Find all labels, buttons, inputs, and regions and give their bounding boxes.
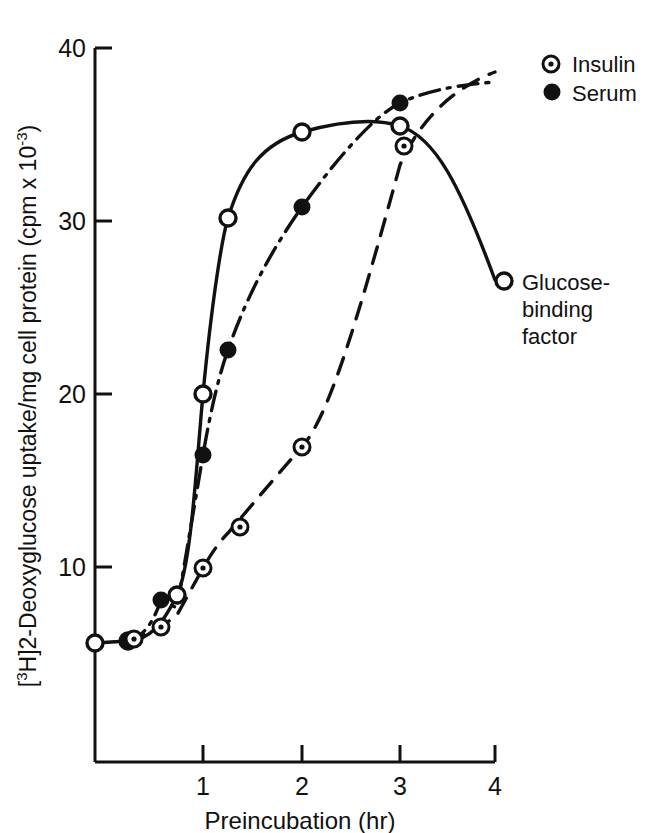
- legend: Insulin Serum Glucose- binding factor: [522, 52, 637, 349]
- y-axis-title-p3: ): [15, 125, 41, 133]
- x-axis-title: Preincubation (hr): [205, 807, 396, 833]
- figure-panel: 40 30 20 10 1 2 3 4 Preincubation (hr) […: [0, 0, 668, 833]
- series-line-glucose-binding-factor: [95, 122, 495, 643]
- datapoint-insulin-6: [543, 56, 559, 72]
- datapoint-gbf-0: [87, 635, 103, 651]
- markers-glucose-binding-factor: [87, 118, 512, 651]
- y-axis-title-sup1: 3: [13, 672, 30, 680]
- svg-text:[3H]2-Deoxyglucose uptake/mg c: [3H]2-Deoxyglucose uptake/mg cell protei…: [13, 125, 41, 687]
- datapoint-gbf-4: [220, 210, 236, 226]
- datapoint-gbf-7: [496, 273, 512, 289]
- x-ticklabel-4: 4: [488, 772, 502, 800]
- datapoint-insulin-0: [126, 631, 142, 647]
- datapoint-serum-3: [220, 342, 237, 359]
- y-ticklabel-20: 20: [58, 380, 86, 408]
- datapoint-insulin-2: [195, 560, 211, 576]
- datapoint-serum-6: [544, 84, 561, 101]
- legend-label-insulin: Insulin: [572, 52, 636, 77]
- datapoint-gbf-6: [392, 118, 408, 134]
- datapoint-insulin-1: [153, 619, 169, 635]
- datapoint-insulin-4: [294, 439, 310, 455]
- legend-label-glucose-binding-factor-line3: factor: [522, 324, 577, 349]
- x-ticklabel-1: 1: [196, 772, 210, 800]
- markers-insulin: [126, 56, 559, 647]
- datapoint-insulin-5: [396, 138, 412, 154]
- y-axis-title-p2: H]2-Deoxyglucose uptake/mg cell protein …: [15, 146, 41, 673]
- y-axis-title-sup2: -3: [13, 132, 30, 145]
- y-axis-title: [3H]2-Deoxyglucose uptake/mg cell protei…: [13, 125, 41, 687]
- datapoint-serum-5: [392, 95, 409, 112]
- datapoint-gbf-5: [294, 124, 310, 140]
- legend-label-glucose-binding-factor: Glucose-: [522, 270, 610, 295]
- chart-canvas: 40 30 20 10 1 2 3 4 Preincubation (hr) […: [0, 0, 668, 833]
- legend-label-serum: Serum: [572, 81, 637, 106]
- legend-label-glucose-binding-factor-line2: binding: [522, 297, 593, 322]
- datapoint-gbf-3: [195, 386, 211, 402]
- series-line-serum: [128, 82, 495, 641]
- datapoint-serum-2: [195, 447, 212, 464]
- x-ticklabel-3: 3: [393, 772, 407, 800]
- y-ticklabel-30: 30: [58, 207, 86, 235]
- datapoint-insulin-3: [232, 519, 248, 535]
- y-ticklabel-40: 40: [58, 34, 86, 62]
- datapoint-serum-4: [294, 199, 311, 216]
- datapoint-serum-1: [153, 592, 170, 609]
- datapoint-gbf-2: [169, 587, 185, 603]
- series-group: [95, 72, 495, 643]
- x-ticklabel-2: 2: [295, 772, 309, 800]
- y-ticklabel-10: 10: [58, 553, 86, 581]
